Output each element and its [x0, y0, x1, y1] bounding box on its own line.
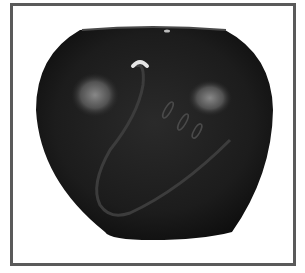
vase	[36, 27, 273, 240]
vase-photo	[0, 0, 305, 273]
